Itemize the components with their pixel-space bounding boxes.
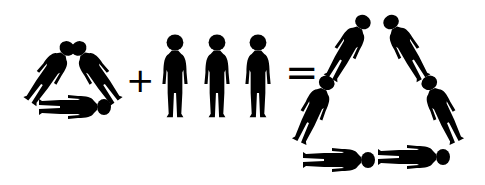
person-icon (280, 0, 485, 185)
group-triangle-of-six (280, 0, 485, 185)
group-triangle-of-three (0, 0, 130, 185)
plus-sign: + (126, 63, 155, 97)
person-icon (155, 30, 280, 120)
group-three-standing (155, 30, 280, 120)
person-icon (0, 0, 130, 185)
